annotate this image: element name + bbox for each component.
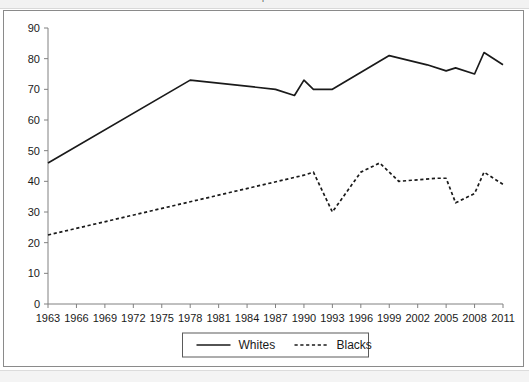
x-tick-label: 2005 [434,312,458,324]
y-tick-label: 50 [28,145,40,157]
y-tick-label: 20 [28,237,40,249]
chart-legend: WhitesBlacks [183,333,372,357]
y-tick-label: 90 [28,22,40,34]
data-series-group [48,53,503,235]
x-tick-label: 1972 [121,312,145,324]
y-axis-tick-labels: 0102030405060708090 [28,22,40,310]
y-tick-label: 10 [28,267,40,279]
x-tick-label: 1999 [377,312,401,324]
axis-spine [48,28,503,304]
x-tick-label: 2008 [462,312,486,324]
x-tick-label: 2002 [405,312,429,324]
series-line-whites [48,53,503,163]
x-tick-label: 1990 [292,312,316,324]
x-tick-label: 1993 [320,312,344,324]
x-tick-label: 1996 [349,312,373,324]
y-tick-label: 40 [28,175,40,187]
x-tick-label: 1963 [36,312,60,324]
x-tick-label: 1969 [93,312,117,324]
x-tick-label: 1987 [263,312,287,324]
y-tick-label: 60 [28,114,40,126]
x-tick-label: 1981 [206,312,230,324]
x-tick-label: 1966 [64,312,88,324]
y-tick-label: 30 [28,206,40,218]
x-tick-label: 1984 [235,312,259,324]
x-axis-tick-labels: 1963196619691972197519781981198419871990… [36,312,515,324]
x-tick-label: 1978 [178,312,202,324]
y-tick-label: 0 [34,298,40,310]
y-tick-label: 80 [28,53,40,65]
y-tick-label: 70 [28,83,40,95]
series-line-blacks [48,163,503,235]
x-tick-label: 1975 [150,312,174,324]
x-tick-label: 2011 [491,312,515,324]
legend-label-whites: Whites [239,338,276,352]
legend-label-blacks: Blacks [337,338,372,352]
axis-lines [44,28,503,308]
